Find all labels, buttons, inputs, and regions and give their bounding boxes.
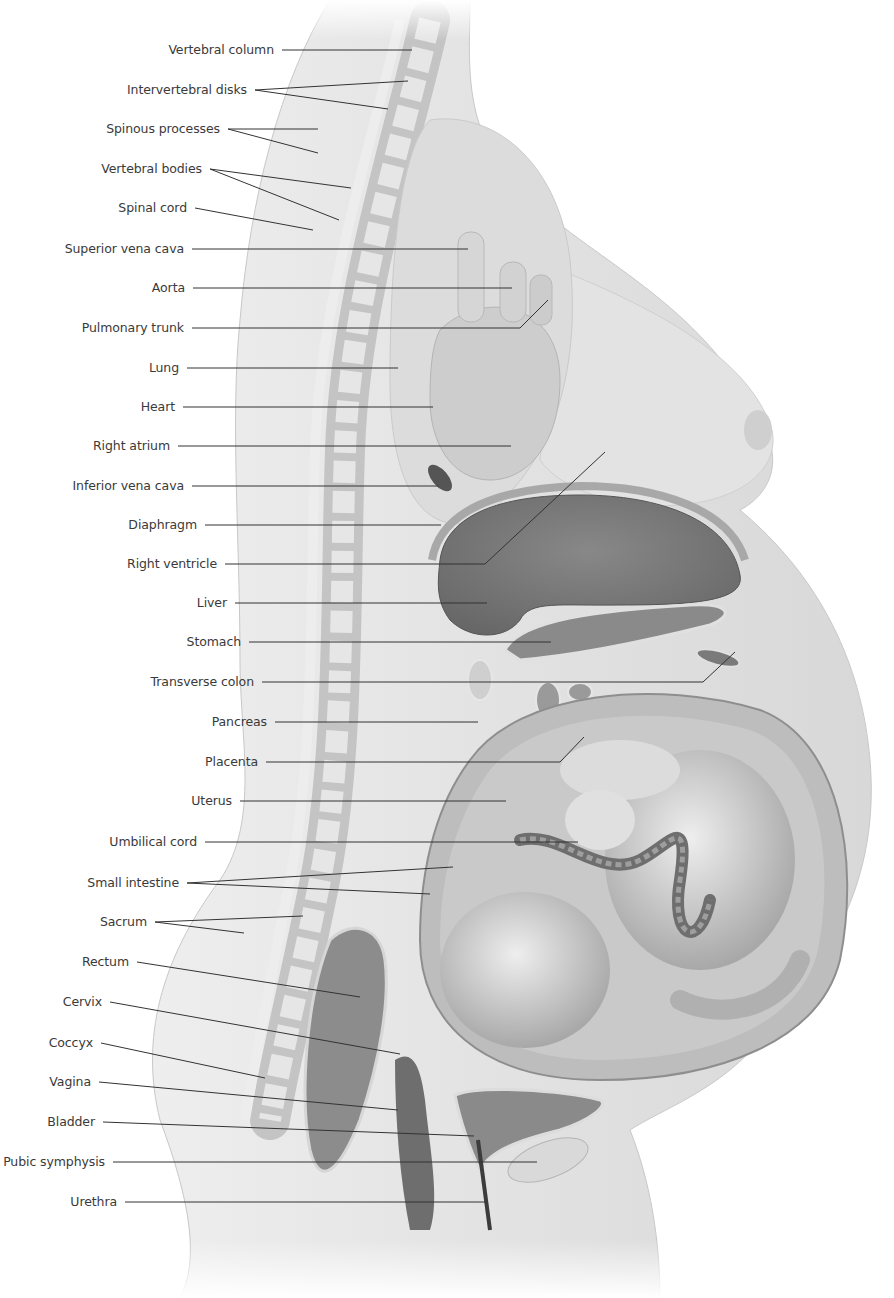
label-stomach: Stomach [187,635,241,649]
label-umbilical-cord: Umbilical cord [109,835,197,849]
label-inferior-vena-cava: Inferior vena cava [72,479,184,493]
label-heart: Heart [141,400,175,414]
superior-vena-cava-shape [458,232,484,322]
label-right-ventricle: Right ventricle [127,557,217,571]
label-intervertebral-disks: Intervertebral disks [127,83,247,97]
label-pancreas: Pancreas [212,715,267,729]
label-cervix: Cervix [63,995,102,1009]
label-liver: Liver [197,596,227,610]
label-sacrum: Sacrum [100,915,147,929]
pulmonary-trunk-shape [530,275,552,325]
label-vagina: Vagina [49,1075,91,1089]
aorta-shape [500,262,526,322]
label-transverse-colon: Transverse colon [151,675,254,689]
label-coccyx: Coccyx [49,1036,93,1050]
label-aorta: Aorta [152,281,185,295]
label-placenta: Placenta [205,755,258,769]
anatomy-illustration [0,0,894,1298]
label-spinous-processes: Spinous processes [106,122,220,136]
label-small-intestine: Small intestine [87,876,179,890]
label-superior-vena-cava: Superior vena cava [65,242,184,256]
label-bladder: Bladder [47,1115,95,1129]
fetus-head [440,892,610,1048]
label-urethra: Urethra [70,1195,117,1209]
label-right-atrium: Right atrium [93,439,170,453]
label-diaphragm: Diaphragm [128,518,197,532]
label-uterus: Uterus [191,794,232,808]
label-rectum: Rectum [82,955,129,969]
label-pulmonary-trunk: Pulmonary trunk [82,321,184,335]
label-lung: Lung [149,361,179,375]
label-vertebral-column: Vertebral column [168,43,274,57]
label-spinal-cord: Spinal cord [118,201,187,215]
label-pubic-symphysis: Pubic symphysis [3,1155,105,1169]
label-vertebral-bodies: Vertebral bodies [101,162,202,176]
